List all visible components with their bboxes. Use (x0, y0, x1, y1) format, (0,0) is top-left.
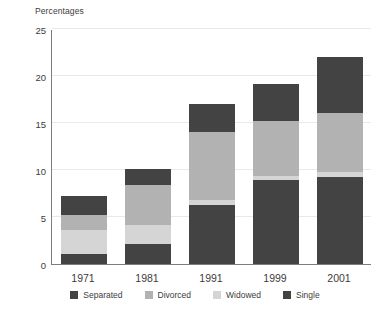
bar-segment-2001-divorced (317, 113, 363, 172)
legend-label: Single (296, 290, 320, 300)
bar-segment-1981-separated (125, 169, 171, 185)
bar-segment-1981-widowed (125, 225, 171, 245)
bar-segment-1991-widowed (189, 200, 235, 205)
bar-segment-1999-single (253, 180, 299, 264)
stacked-bar-chart: Percentages 0510152025 19711981199119992… (0, 0, 390, 312)
legend-item-single[interactable]: Single (283, 290, 320, 300)
bar-segment-1981-divorced (125, 185, 171, 224)
legend-label: Widowed (226, 290, 261, 300)
y-axis-title: Percentages (35, 6, 84, 16)
legend-swatch-separated-icon (70, 291, 78, 299)
bar-1981 (125, 169, 171, 264)
bar-segment-1999-widowed (253, 176, 299, 181)
legend-label: Separated (83, 290, 122, 300)
bar-segment-2001-single (317, 177, 363, 264)
y-tick-label-20: 20 (6, 72, 46, 83)
bar-segment-1999-divorced (253, 121, 299, 176)
bar-segment-1991-divorced (189, 132, 235, 200)
x-tick-label-1999: 1999 (240, 272, 310, 284)
y-tick-label-0: 0 (6, 260, 46, 271)
y-tick-label-10: 10 (6, 166, 46, 177)
bar-1999 (253, 84, 299, 264)
bar-segment-1991-single (189, 205, 235, 264)
legend-swatch-widowed-icon (213, 291, 221, 299)
legend-swatch-divorced-icon (145, 291, 153, 299)
x-tick-label-1991: 1991 (176, 272, 246, 284)
bar-1971 (61, 196, 107, 264)
y-axis-tick-labels: 0510152025 (0, 30, 46, 265)
bar-segment-2001-widowed (317, 172, 363, 177)
x-tick-label-1971: 1971 (48, 272, 118, 284)
chart-legend: SeparatedDivorcedWidowedSingle (0, 290, 390, 300)
y-tick-label-5: 5 (6, 213, 46, 224)
bar-segment-1981-single (125, 244, 171, 264)
plot-inner (52, 30, 371, 264)
bar-segment-1971-widowed (61, 230, 107, 254)
bar-segment-1971-separated (61, 196, 107, 215)
bar-segment-1999-separated (253, 84, 299, 121)
y-tick-label-15: 15 (6, 119, 46, 130)
legend-item-separated[interactable]: Separated (70, 290, 122, 300)
legend-item-widowed[interactable]: Widowed (213, 290, 261, 300)
legend-swatch-single-icon (283, 291, 291, 299)
bar-segment-1991-separated (189, 104, 235, 132)
bar-segment-1971-divorced (61, 215, 107, 230)
x-tick-label-1981: 1981 (112, 272, 182, 284)
bar-1991 (189, 104, 235, 264)
bar-segment-2001-separated (317, 57, 363, 112)
legend-item-divorced[interactable]: Divorced (145, 290, 192, 300)
legend-label: Divorced (158, 290, 192, 300)
x-tick-label-2001: 2001 (304, 272, 374, 284)
gridline-25 (52, 28, 371, 29)
plot-area (51, 30, 371, 265)
y-tick-label-25: 25 (6, 25, 46, 36)
bar-segment-1971-single (61, 254, 107, 264)
bar-2001 (317, 56, 363, 264)
